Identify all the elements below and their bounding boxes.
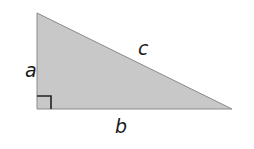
right-triangle-diagram: a b c [0,0,254,149]
label-c: c [138,37,149,59]
triangle-shape [37,13,232,109]
label-b: b [115,115,127,137]
label-a: a [25,59,37,81]
